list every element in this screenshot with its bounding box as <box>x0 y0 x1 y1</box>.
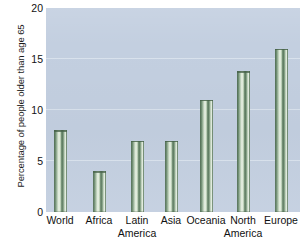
y-tick-label: 20 <box>19 3 43 14</box>
bar <box>54 130 67 212</box>
x-tick-label-line2: America <box>102 227 172 240</box>
x-tick-label-line2: America <box>208 227 278 240</box>
x-axis-tick-labels: WorldAfricaLatinAmericaAsiaOceaniaNorthA… <box>0 214 306 252</box>
bar-top-cap <box>237 71 250 73</box>
plot-area <box>46 8 300 212</box>
y-tick-label: 15 <box>19 54 43 65</box>
bar-top-cap <box>54 130 67 132</box>
bar-top-cap <box>165 141 178 143</box>
x-tick-label: Europe <box>246 214 306 227</box>
bar-chart: Percentage of people older than age 65 2… <box>0 0 306 252</box>
bar <box>275 49 288 212</box>
bar <box>131 141 144 212</box>
bar <box>93 171 106 212</box>
y-tick-label: 10 <box>19 105 43 116</box>
bar <box>200 100 213 212</box>
bar-top-cap <box>200 100 213 102</box>
gridline <box>46 58 300 59</box>
bar-top-cap <box>93 171 106 173</box>
bar <box>237 71 250 212</box>
x-tick-label-line1: Europe <box>264 214 298 226</box>
gridline <box>46 109 300 110</box>
bar <box>165 141 178 212</box>
y-tick-label: 5 <box>19 156 43 167</box>
bar-top-cap <box>275 49 288 51</box>
bar-top-cap <box>131 141 144 143</box>
